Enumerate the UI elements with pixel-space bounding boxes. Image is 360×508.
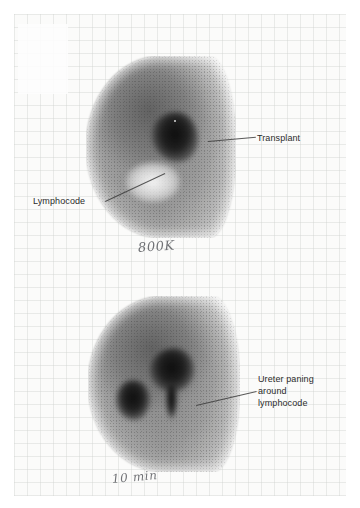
label-ureter-line2: around [258, 386, 287, 397]
label-ureter-line3: lymphocode [258, 398, 308, 409]
paste-up-patch [18, 24, 68, 94]
scan-image-upper [86, 56, 236, 238]
figure-page: Transplant Lymphocode 800K Ureter paning… [0, 0, 360, 508]
label-transplant: Transplant [257, 133, 300, 144]
scan-edge-vignette [88, 296, 240, 472]
label-lymphocode: Lymphocode [33, 196, 85, 207]
scan-image-lower [88, 296, 240, 472]
handwritten-note-800k: 800K [137, 237, 175, 255]
scan-edge-vignette [86, 56, 236, 238]
label-ureter-line1: Ureter paning [258, 374, 314, 385]
